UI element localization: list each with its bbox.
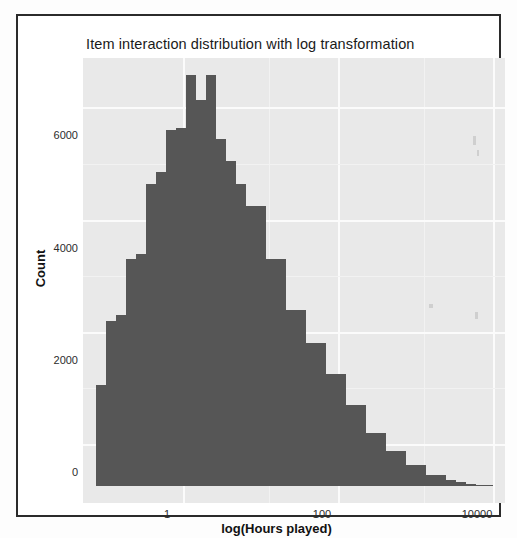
histogram-bar — [376, 433, 386, 486]
histogram-bar — [246, 206, 256, 486]
histogram-bar — [396, 451, 406, 486]
histogram-bar — [126, 259, 136, 486]
histogram-bar — [136, 254, 146, 486]
figure-frame: Item interaction distribution with log t… — [16, 14, 501, 517]
scanned-page: Item interaction distribution with log t… — [0, 0, 517, 538]
y-axis-label: Count — [33, 239, 48, 299]
histogram-bar — [276, 259, 286, 486]
histogram-bar — [406, 465, 416, 486]
histogram-bar — [386, 451, 396, 486]
histogram-bar — [426, 475, 436, 486]
histogram-bar — [226, 161, 236, 486]
x-axis-tick-label: 1 — [164, 508, 170, 520]
scan-artifact — [477, 150, 479, 156]
x-axis-tick-label: 100 — [313, 508, 331, 520]
histogram-bar — [166, 130, 176, 486]
histogram-bar — [236, 184, 246, 486]
y-axis-tick-label: 2000 — [44, 354, 78, 366]
histogram-bar — [156, 172, 166, 486]
histogram-bar — [96, 385, 106, 486]
histogram-bar — [356, 405, 366, 486]
scan-artifact — [473, 136, 476, 145]
histogram-bar — [146, 184, 156, 486]
histogram-bar — [216, 139, 226, 486]
histogram-bar — [446, 480, 456, 486]
y-axis-tick-label: 0 — [44, 466, 78, 478]
histogram-bar — [196, 100, 206, 486]
scan-artifact — [475, 312, 478, 319]
histogram-bars — [83, 58, 505, 503]
histogram-bar — [466, 484, 476, 486]
histogram-bar — [306, 343, 316, 486]
histogram-bar — [326, 374, 336, 486]
histogram-bar — [346, 405, 356, 486]
histogram-bar — [256, 206, 266, 486]
histogram-bar — [286, 310, 296, 486]
x-axis-label: log(Hours played) — [18, 521, 517, 536]
histogram-bar — [366, 433, 376, 486]
histogram-bar — [316, 343, 326, 486]
histogram-bar — [296, 310, 306, 486]
histogram-bar — [416, 465, 426, 486]
histogram-bar — [176, 128, 186, 486]
histogram-bar — [476, 485, 493, 486]
chart-title: Item interaction distribution with log t… — [86, 36, 414, 52]
x-axis-tick-label: 10000 — [462, 508, 493, 520]
y-axis-tick-label: 4000 — [44, 242, 78, 254]
histogram-bar — [206, 75, 216, 486]
histogram-bar — [106, 321, 116, 486]
histogram-bar — [116, 315, 126, 486]
histogram-bar — [266, 259, 276, 486]
histogram-bar — [186, 75, 196, 486]
y-axis-tick-label: 6000 — [44, 129, 78, 141]
histogram-bar — [436, 475, 446, 486]
scan-artifact — [429, 304, 433, 308]
plot-panel — [83, 58, 505, 503]
histogram-bar — [336, 374, 346, 486]
histogram-bar — [456, 482, 466, 486]
